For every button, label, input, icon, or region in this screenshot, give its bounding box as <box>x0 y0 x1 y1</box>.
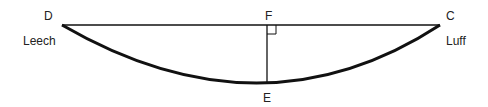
point-label-f: F <box>265 10 272 22</box>
luff-label: Luff <box>446 35 466 47</box>
point-label-c: C <box>446 10 455 22</box>
camber-curve-leech-to-luff <box>62 25 440 83</box>
sail-camber-diagram <box>0 0 488 107</box>
leech-label: Leech <box>23 35 56 47</box>
point-label-e: E <box>263 92 271 104</box>
point-label-d: D <box>44 10 53 22</box>
right-angle-marker <box>267 25 276 34</box>
